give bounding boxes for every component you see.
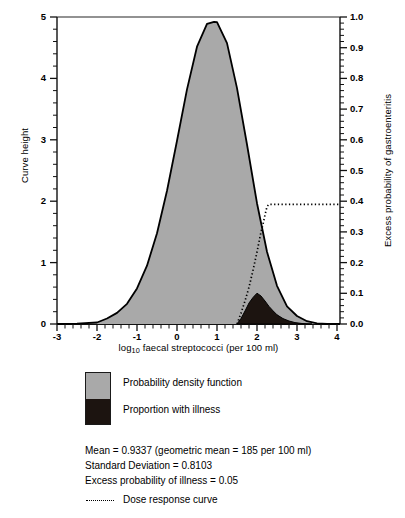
- y-left-tick-label-1: 1: [26, 257, 46, 268]
- stats-mean: Mean = 0.9337 (geometric mean = 185 per …: [85, 445, 311, 456]
- y-right-axis-ticks: [340, 17, 347, 324]
- legend-swatch-illness: [86, 399, 110, 425]
- figure-container: -3 -2 -1 0 1 2 3 4 0 1 2 3 4 5 0.0 0.1 0…: [0, 0, 405, 518]
- dose-response-legend-dash-icon: [86, 500, 114, 501]
- y-right-tick-label-0: 0.0: [350, 318, 376, 329]
- legend-swatch-group: [85, 372, 111, 425]
- y-right-tick-label-1: 0.1: [350, 287, 376, 298]
- y-left-axis-ticks: [50, 17, 57, 324]
- y-left-tick-label-4: 4: [26, 72, 46, 83]
- x-axis-title: log10 faecal streptococci (per 100 ml): [57, 342, 340, 353]
- x-tick-label-6: 3: [283, 331, 311, 342]
- stats-excess-probability: Excess probability of illness = 0.05: [85, 475, 238, 486]
- y-right-tick-label-7: 0.7: [350, 103, 376, 114]
- legend-swatch-pdf: [86, 373, 110, 399]
- x-tick-label-1: -2: [83, 331, 111, 342]
- x-tick-label-5: 2: [243, 331, 271, 342]
- legend-label-pdf: Probability density function: [123, 377, 242, 388]
- x-tick-label-4: 1: [203, 331, 231, 342]
- y-axis-left-title: Curve height: [19, 114, 30, 198]
- y-right-tick-label-4: 0.4: [350, 195, 376, 206]
- y-right-tick-label-6: 0.6: [350, 134, 376, 145]
- x-axis-title-rest: faecal streptococci (per 100 ml): [140, 342, 278, 353]
- legend-label-dose-response: Dose response curve: [123, 494, 218, 505]
- stats-standard-deviation: Standard Deviation = 0.8103: [85, 460, 212, 471]
- y-right-tick-label-10: 1.0: [350, 11, 376, 22]
- x-tick-label-0: -3: [43, 331, 71, 342]
- y-right-tick-label-3: 0.3: [350, 226, 376, 237]
- x-axis-ticks: [57, 324, 337, 331]
- y-right-tick-label-8: 0.8: [350, 72, 376, 83]
- legend-label-illness: Proportion with illness: [123, 404, 220, 415]
- y-left-tick-label-5: 5: [26, 11, 46, 22]
- pdf-area: [57, 22, 340, 324]
- y-right-tick-label-2: 0.2: [350, 257, 376, 268]
- x-tick-label-2: -1: [123, 331, 151, 342]
- x-tick-label-3: 0: [163, 331, 191, 342]
- x-tick-label-7: 4: [323, 331, 351, 342]
- x-axis-title-base: log: [119, 342, 132, 353]
- y-right-tick-label-5: 0.5: [350, 165, 376, 176]
- y-right-tick-label-9: 0.9: [350, 42, 376, 53]
- y-axis-right-title: Excess probability of gastroenteritis: [382, 71, 393, 271]
- chart-plot: [0, 0, 405, 360]
- x-axis-title-subscript: 10: [132, 346, 140, 355]
- legend-block: Probability density function Proportion …: [0, 360, 405, 518]
- y-left-tick-label-0: 0: [26, 318, 46, 329]
